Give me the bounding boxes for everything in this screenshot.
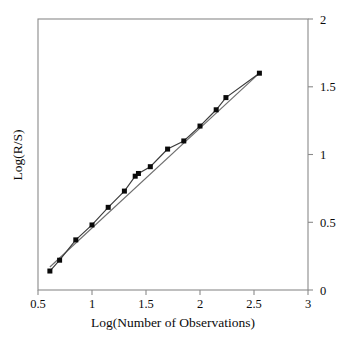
y-axis-ticks [308, 19, 313, 290]
data-point [106, 205, 111, 210]
x-tick-label-5: 3 [305, 297, 311, 311]
data-point [214, 107, 219, 112]
data-point [136, 171, 141, 176]
x-tick-label-0: 0.5 [30, 297, 46, 311]
data-point [47, 269, 52, 274]
x-axis-title: Log(Number of Observations) [91, 315, 255, 330]
y-tick-label-1: 0.5 [320, 216, 336, 230]
data-point [257, 71, 262, 76]
x-axis-ticks [38, 290, 308, 295]
x-tick-label-1: 1 [89, 297, 95, 311]
y-tick-label-0: 0 [320, 284, 326, 298]
data-point [198, 124, 203, 129]
chart-page: 0.5 1 1.5 2 2.5 3 0 0.5 1 1.5 2 Log(Numb… [0, 0, 359, 343]
fit-line [50, 73, 260, 267]
x-tick-labels: 0.5 1 1.5 2 2.5 3 [30, 297, 311, 311]
x-tick-label-2: 1.5 [138, 297, 154, 311]
data-point [57, 258, 62, 263]
data-point [90, 222, 95, 227]
plot-frame [38, 19, 308, 290]
y-tick-label-3: 1.5 [320, 80, 336, 94]
y-tick-label-2: 1 [320, 148, 326, 162]
data-point [181, 138, 186, 143]
y-tick-labels: 0 0.5 1 1.5 2 [320, 13, 336, 298]
data-point [122, 189, 127, 194]
y-axis-title: Log(R/S) [10, 129, 25, 180]
data-point [73, 237, 78, 242]
data-point [148, 164, 153, 169]
y-tick-label-4: 2 [320, 13, 326, 27]
data-point [223, 95, 228, 100]
data-point [165, 147, 170, 152]
x-tick-label-4: 2.5 [246, 297, 262, 311]
scatter-plot: 0.5 1 1.5 2 2.5 3 0 0.5 1 1.5 2 Log(Numb… [0, 0, 359, 343]
x-tick-label-3: 2 [197, 297, 203, 311]
